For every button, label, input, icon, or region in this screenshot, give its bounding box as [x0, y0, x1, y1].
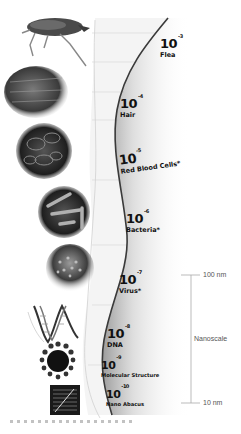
nanoscale-top-label: 100 nm	[203, 271, 226, 278]
scale-label-virus: 10-7 Virus*	[119, 271, 142, 295]
scale-label-hair: 10-4 Hair	[120, 95, 143, 119]
dna-image	[28, 306, 78, 342]
scale-label-dna: 10-8 DNA	[107, 325, 130, 349]
caption-illegible	[10, 420, 132, 423]
red-blood-cells-image	[16, 123, 72, 179]
nanoscale-bottom-label: 10 nm	[203, 399, 222, 406]
scale-label-bacteria: 10-6 Bacteria*	[126, 210, 160, 234]
nanoscale-middle-label: Nanoscale	[194, 335, 227, 342]
virus-image	[46, 244, 94, 292]
hair-image	[4, 66, 68, 118]
scale-label-flea: 10-3 Flea	[160, 35, 183, 59]
nano-abacus-image	[50, 385, 80, 415]
scale-label-molecular-structure: 10-9 Molecular Structure	[101, 356, 159, 378]
bacteria-image	[38, 186, 90, 238]
flea-image	[22, 18, 90, 66]
molecule-image	[40, 341, 76, 379]
scale-label-nano-abacus: 10-10 Nano Abacus	[106, 385, 144, 407]
size-scale-diagram: 10-3 Flea 10-4 Hair 10-5 Red Blood Cells…	[0, 0, 241, 434]
